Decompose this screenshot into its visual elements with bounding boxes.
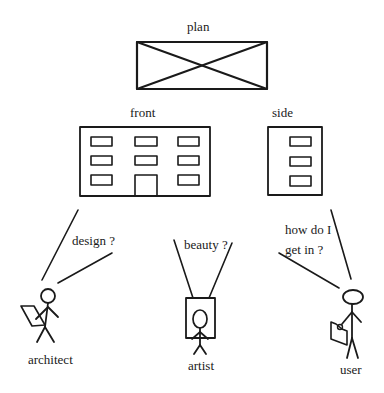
leg <box>45 327 54 342</box>
user-label: user <box>340 362 362 377</box>
window <box>135 156 157 165</box>
front-view: front <box>80 105 210 196</box>
arm <box>48 307 58 317</box>
window <box>290 137 311 146</box>
arm <box>342 312 352 324</box>
window <box>91 137 112 146</box>
window <box>178 175 199 185</box>
door <box>135 175 157 196</box>
window <box>91 175 112 185</box>
user-question-line-2: get in ? <box>285 242 323 257</box>
head-icon <box>41 289 55 303</box>
artist-stick-figure <box>186 298 215 354</box>
head-icon <box>343 290 363 304</box>
side-view: side <box>268 105 322 195</box>
drawing-board-icon <box>21 306 45 326</box>
window <box>290 157 311 166</box>
architect-label: architect <box>28 352 73 367</box>
perspectives-diagram: plan front side design ? <box>0 0 384 393</box>
window <box>290 176 311 186</box>
leg <box>352 338 358 358</box>
sight-line <box>58 253 112 283</box>
architect-figure: design ? architect <box>21 210 115 367</box>
artist-label: artist <box>188 358 214 373</box>
user-figure: how do I get in ? user <box>279 210 363 377</box>
user-question-line-1: how do I <box>285 222 331 237</box>
sight-line <box>331 210 351 279</box>
sight-line <box>279 253 339 288</box>
plan-view: plan <box>137 19 267 89</box>
head-icon <box>193 310 207 328</box>
leg <box>200 345 206 354</box>
artist-question: beauty ? <box>184 237 228 252</box>
window <box>135 137 157 146</box>
leg <box>37 327 45 342</box>
front-label: front <box>130 105 156 120</box>
side-label: side <box>272 105 293 120</box>
window <box>91 156 112 165</box>
architect-question: design ? <box>72 233 115 248</box>
user-stick-figure <box>331 290 363 358</box>
plan-label: plan <box>187 19 210 34</box>
leg <box>194 345 200 354</box>
window <box>178 156 199 165</box>
architect-stick-figure <box>21 289 58 342</box>
window <box>178 137 199 146</box>
arm <box>352 312 361 322</box>
artist-figure: beauty ? artist <box>174 237 232 373</box>
